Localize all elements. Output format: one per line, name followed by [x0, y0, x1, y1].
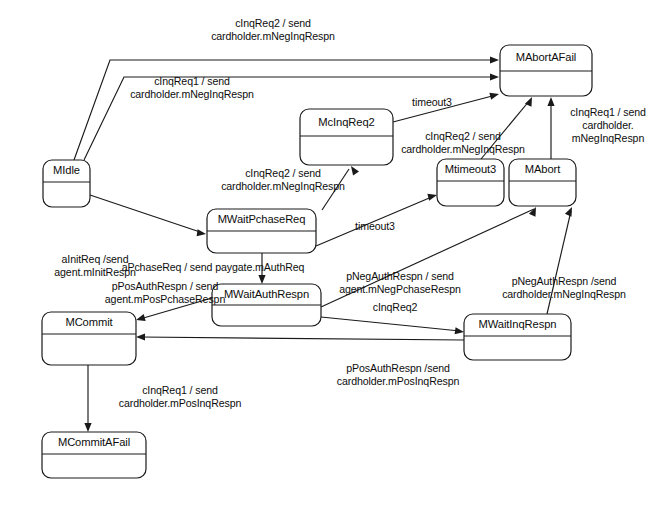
transition-line	[321, 317, 460, 331]
transition-label-line: cardholder.mNegInqRespn	[401, 143, 525, 155]
state-MWaitInqRespn[interactable]: MWaitInqRespn	[464, 314, 571, 360]
transition-label-line: cInqReq1 / send	[154, 75, 230, 87]
state-label: Mtimeout3	[445, 163, 496, 175]
transition-label-line: pPosAuthRespn /send	[346, 362, 450, 374]
transition-label: cInqReq1 / sendcardholder.mPosInqRespn	[119, 384, 242, 409]
transition-label-line: cInqReq1 / send	[570, 106, 646, 118]
state-label: MAbortAFail	[516, 51, 576, 63]
state-label: McInqReq2	[318, 116, 374, 128]
transition-label-line: timeout3	[355, 220, 395, 232]
transition-label-line: cardholder.mPosInqRespn	[337, 375, 460, 387]
transition-MWaitAuthRespn-to-MWaitInqRespn	[321, 317, 465, 336]
transition-label-line: cardholder.mNegInqRespn	[211, 30, 335, 42]
state-Mtimeout3[interactable]: Mtimeout3	[437, 159, 504, 206]
state-MWaitAuthRespn[interactable]: MWaitAuthRespn	[212, 284, 321, 326]
transition-line	[140, 337, 464, 340]
transition-label: pNegAuthRespn /sendcardholder.mNegInqRes…	[502, 275, 626, 300]
arrowhead-icon	[490, 56, 499, 63]
transition-label-line: cardholder.mPosInqRespn	[119, 397, 242, 409]
transition-label-line: cardholder.	[582, 119, 633, 131]
transition-label-line: timeout3	[412, 96, 452, 108]
state-diagram: MIdleMcInqReq2MAbortAFailMWaitPchaseReqM…	[0, 0, 667, 511]
transition-MAbort-to-MAbortAFail	[547, 97, 554, 159]
transition-label: aPchaseReq / send paygate.mAuthReq	[122, 261, 305, 273]
transition-label: pNegAuthRespn / sendagent.mNegPchaseResp…	[339, 270, 461, 295]
arrowhead-icon	[565, 205, 575, 216]
transition-MWaitPchaseReq-to-Mtimeout3	[316, 192, 438, 246]
transition-label-line: aPchaseReq / send paygate.mAuthReq	[122, 261, 305, 273]
state-label: MIdle	[53, 164, 80, 176]
transition-label-line: agent.mPosPchaseRespn	[105, 293, 226, 305]
transition-label: cInqReq2 / sendcardholder.mNegInqRespn	[401, 130, 525, 155]
arrowhead-icon	[258, 275, 265, 284]
state-McInqReq2[interactable]: McInqReq2	[300, 109, 393, 165]
transition-label-line: cInqReq2	[373, 301, 418, 313]
state-label: MWaitPchaseReq	[218, 213, 306, 225]
transition-label-line: cardholder.mNegInqRespn	[130, 88, 254, 100]
transition-label: cInqReq1 / sendcardholder.mNegInqRespn	[130, 75, 254, 100]
diagram-canvas: MIdleMcInqReq2MAbortAFailMWaitPchaseReqM…	[0, 0, 667, 511]
transition-label-line: mNegInqRespn	[572, 132, 645, 144]
transition-label: cInqReq2 / sendcardholder.mNegInqRespn	[211, 17, 335, 42]
arrowhead-icon	[197, 229, 207, 237]
transition-MIdle-to-MWaitPchaseReq	[90, 195, 207, 238]
arrowhead-icon	[348, 164, 359, 175]
arrowhead-icon	[84, 423, 91, 432]
state-label: MWaitAuthRespn	[224, 288, 309, 300]
state-MCommitAFail[interactable]: MCommitAFail	[42, 432, 146, 478]
transition-label-line: cInqReq2 / send	[425, 130, 501, 142]
state-MAbort[interactable]: MAbort	[509, 159, 576, 206]
state-MCommit[interactable]: MCommit	[42, 312, 136, 365]
transition-label-line: cardholder.mNegInqRespn	[221, 180, 345, 192]
state-label: MWaitInqRespn	[479, 318, 557, 330]
arrowhead-icon	[427, 192, 437, 201]
transition-label-line: cInqReq2 / send	[245, 167, 321, 179]
arrowhead-icon	[489, 91, 499, 100]
transition-MWaitInqRespn-to-MCommit	[136, 333, 464, 340]
transition-label: pPosAuthRespn /sendcardholder.mPosInqRes…	[337, 362, 460, 387]
arrowhead-icon	[455, 327, 465, 335]
transition-label: timeout3	[355, 220, 395, 232]
state-label: MCommit	[65, 316, 113, 328]
arrowhead-icon	[135, 314, 146, 323]
transition-label: cInqReq1 / sendcardholder.mNegInqRespn	[570, 106, 646, 144]
transition-label: pPosAuthRespn / sendagent.mPosPchaseResp…	[105, 280, 226, 305]
transition-label: timeout3	[412, 96, 452, 108]
arrowhead-icon	[136, 333, 145, 340]
transition-line	[90, 195, 203, 233]
state-MIdle[interactable]: MIdle	[43, 160, 90, 207]
transition-label-line: cardholder.mNegInqRespn	[502, 288, 626, 300]
transition-label: cInqReq2 / sendcardholder.mNegInqRespn	[221, 167, 345, 192]
transition-label-line: agent.mNegPchaseRespn	[339, 283, 461, 295]
transition-label-line: cInqReq1 / send	[142, 384, 218, 396]
state-MAbortAFail[interactable]: MAbortAFail	[500, 45, 592, 96]
state-label: MCommitAFail	[58, 436, 130, 448]
transition-MCommit-to-MCommitAFail	[84, 365, 91, 432]
transition-label-line: pNegAuthRespn / send	[346, 270, 454, 282]
state-MWaitPchaseReq[interactable]: MWaitPchaseReq	[207, 209, 316, 253]
arrowhead-icon	[490, 73, 499, 80]
transition-label-line: pPosAuthRespn / send	[112, 280, 219, 292]
transition-label-line: aInitReq /send	[62, 253, 129, 265]
transition-label: cInqReq2	[373, 301, 418, 313]
arrowhead-icon	[547, 97, 554, 106]
transition-label-line: pNegAuthRespn /send	[512, 275, 617, 287]
state-label: MAbort	[525, 163, 561, 175]
transition-label-line: cInqReq2 / send	[235, 17, 311, 29]
